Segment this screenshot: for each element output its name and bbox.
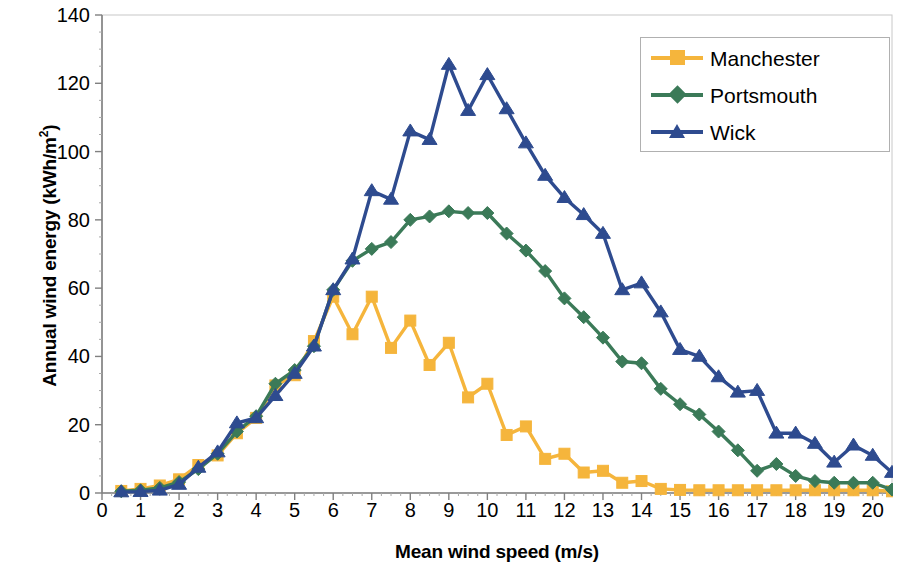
legend-item-wick[interactable]: Wick <box>651 117 756 147</box>
y-tick-label: 100 <box>10 142 90 162</box>
data-point-marker <box>617 477 628 488</box>
chart-legend: Manchester Portsmouth Wick <box>640 37 890 152</box>
series-portsmouth <box>115 205 899 498</box>
data-point-marker <box>366 291 377 302</box>
x-tick-label: 1 <box>121 500 161 520</box>
data-point-marker <box>675 484 686 495</box>
y-tick-label: 60 <box>10 278 90 298</box>
data-point-marker <box>694 485 705 496</box>
x-tick-label: 7 <box>352 500 392 520</box>
x-tick-label: 17 <box>737 500 777 520</box>
data-point-marker <box>732 485 743 496</box>
x-axis-title: Mean wind speed (m/s) <box>102 541 892 563</box>
y-tick-label: 140 <box>10 5 90 25</box>
data-point-marker <box>461 103 476 115</box>
data-point-marker <box>771 485 782 496</box>
data-point-marker <box>559 448 570 459</box>
y-tick-label: 0 <box>10 483 90 503</box>
legend-swatch-portsmouth <box>651 84 703 106</box>
data-point-marker <box>442 205 455 218</box>
x-tick-label: 18 <box>776 500 816 520</box>
x-tick-label: 8 <box>390 500 430 520</box>
data-point-marker <box>364 184 379 196</box>
x-tick-label: 4 <box>236 500 276 520</box>
data-point-marker <box>540 453 551 464</box>
data-point-marker <box>482 378 493 389</box>
right-margin-mask <box>893 0 903 571</box>
data-point-marker <box>441 57 456 69</box>
legend-marker-manchester-icon <box>670 50 685 65</box>
data-point-marker <box>520 421 531 432</box>
data-point-marker <box>713 485 724 496</box>
x-tick-label: 16 <box>699 500 739 520</box>
x-tick-label: 20 <box>853 500 893 520</box>
data-point-marker <box>443 337 454 348</box>
series-line <box>121 211 892 491</box>
data-point-marker <box>752 485 763 496</box>
data-point-marker <box>597 465 608 476</box>
data-point-marker <box>499 102 514 114</box>
data-point-marker <box>423 210 436 223</box>
legend-swatch-wick <box>651 121 703 143</box>
data-point-marker <box>846 438 861 450</box>
x-tick-label: 9 <box>429 500 469 520</box>
x-tick-label: 15 <box>660 500 700 520</box>
x-tick-label: 6 <box>313 500 353 520</box>
legend-swatch-manchester <box>651 47 703 69</box>
data-point-marker <box>578 467 589 478</box>
data-point-marker <box>424 359 435 370</box>
x-tick-label: 11 <box>506 500 546 520</box>
legend-label-manchester: Manchester <box>710 48 820 69</box>
legend-label-portsmouth: Portsmouth <box>710 85 817 106</box>
data-point-marker <box>403 124 418 136</box>
data-point-marker <box>538 168 553 180</box>
data-point-marker <box>463 392 474 403</box>
data-point-marker <box>462 207 475 220</box>
wind-energy-line-chart: Annual wind energy (kWh/m2) 020406080100… <box>0 0 903 571</box>
data-point-marker <box>347 329 358 340</box>
y-tick-label: 20 <box>10 415 90 435</box>
y-tick-label: 80 <box>10 210 90 230</box>
data-point-marker <box>634 276 649 288</box>
x-tick-label: 3 <box>198 500 238 520</box>
x-tick-label: 12 <box>544 500 584 520</box>
data-point-marker <box>790 485 801 496</box>
data-point-marker <box>636 476 647 487</box>
y-tick-label: 40 <box>10 346 90 366</box>
legend-marker-wick-icon <box>669 124 685 138</box>
data-point-marker <box>405 315 416 326</box>
legend-item-manchester[interactable]: Manchester <box>651 43 820 73</box>
x-tick-label: 19 <box>814 500 854 520</box>
data-point-marker <box>655 483 666 494</box>
data-point-marker <box>673 342 688 354</box>
data-point-marker <box>386 342 397 353</box>
x-tick-label: 14 <box>622 500 662 520</box>
data-point-marker <box>480 68 495 80</box>
data-point-marker <box>518 136 533 148</box>
x-tick-label: 10 <box>467 500 507 520</box>
legend-item-portsmouth[interactable]: Portsmouth <box>651 80 817 110</box>
x-tick-label: 13 <box>583 500 623 520</box>
data-point-marker <box>501 429 512 440</box>
x-tick-label: 0 <box>82 500 122 520</box>
y-tick-label: 120 <box>10 73 90 93</box>
y-axis-tick-labels: 020406080100120140 <box>0 0 90 571</box>
legend-label-wick: Wick <box>710 122 756 143</box>
x-tick-label: 2 <box>159 500 199 520</box>
legend-marker-portsmouth-icon <box>668 85 686 103</box>
x-tick-label: 5 <box>275 500 315 520</box>
